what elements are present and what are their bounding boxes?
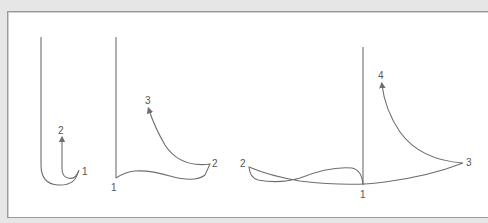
figure-c-trajectory <box>249 85 463 185</box>
figure-c-label-1: 1 <box>360 189 366 200</box>
figure-b: 1 2 3 <box>111 37 218 193</box>
figure-a-trajectory <box>62 139 79 178</box>
figure-b-label-1: 1 <box>111 182 117 193</box>
figure-c-label-3: 3 <box>466 157 472 168</box>
figure-c: 2 1 3 4 <box>240 47 472 200</box>
figure-c-label-4: 4 <box>378 70 384 81</box>
figure-a-label-1: 1 <box>82 166 88 177</box>
figure-a-label-2: 2 <box>58 125 64 136</box>
figure-b-trajectory <box>116 110 210 179</box>
figure-b-label-3: 3 <box>145 95 151 106</box>
figure-b-label-2: 2 <box>212 158 218 169</box>
figure-c-label-2: 2 <box>240 158 246 169</box>
figure-a: 2 1 <box>41 37 88 185</box>
figure-a-wall <box>41 37 78 185</box>
